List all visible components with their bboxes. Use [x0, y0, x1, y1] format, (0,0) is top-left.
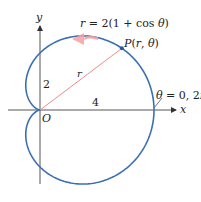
- radius-label: r: [77, 68, 83, 79]
- direction-arrow-icon: [72, 33, 98, 45]
- x-axis-label: x: [180, 103, 187, 116]
- equation-label: r = 2(1 + cos θ): [80, 17, 169, 30]
- origin-label: O: [42, 112, 51, 125]
- y-intercept-label: 2: [43, 78, 50, 91]
- radius-line: [40, 48, 122, 110]
- y-axis-label: y: [35, 11, 43, 24]
- x-intercept-label: 4: [92, 96, 99, 109]
- cardioid-diagram: r = 2(1 + cos θ) P(r, θ) r 2 4 O θ = 0, …: [0, 0, 201, 202]
- angle-label: θ = 0, 2π: [156, 89, 201, 102]
- point-label: P(r, θ): [123, 37, 159, 50]
